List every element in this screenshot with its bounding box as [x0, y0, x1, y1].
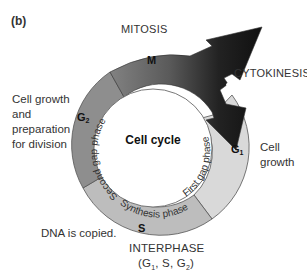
cytokinesis-label: CYTOKINESIS	[234, 66, 307, 81]
g2-description: Cell growth and preparation for division	[12, 92, 70, 152]
g1-description: Cell growth	[260, 140, 295, 170]
g2-desc-line: and	[12, 107, 70, 122]
interphase-title: INTERPHASE	[129, 241, 203, 256]
m-phase-letter: M	[147, 54, 156, 66]
center-title: Cell cycle	[125, 133, 181, 147]
interphase-label: INTERPHASE (G1, S, G2)	[129, 241, 203, 274]
s-description: DNA is copied.	[41, 226, 116, 241]
mitosis-label: MITOSIS	[121, 22, 167, 37]
s-phase-letter: S	[138, 222, 145, 234]
g1-desc-line: growth	[260, 155, 295, 170]
g2-desc-line: for division	[12, 137, 70, 152]
panel-label: (b)	[11, 14, 26, 29]
g2-desc-line: preparation	[12, 122, 70, 137]
g1-desc-line: Cell	[260, 140, 295, 155]
g2-desc-line: Cell growth	[12, 92, 70, 107]
interphase-subtitle: (G1, S, G2)	[129, 256, 203, 274]
